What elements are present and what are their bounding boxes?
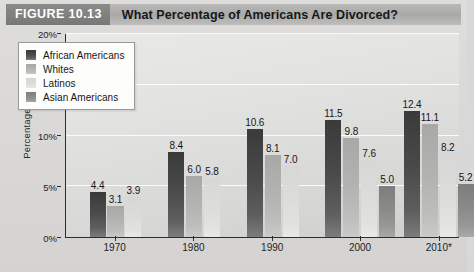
bar[interactable]: 4.4 [90,192,106,237]
legend-swatch-icon [26,50,36,60]
y-tick-label: 20% [38,29,57,40]
bar[interactable]: 10.6 [247,129,263,237]
bar[interactable]: 7.0 [283,166,299,237]
x-tick-mark [193,236,194,241]
legend-swatch-icon [26,92,36,102]
chart-area: Percentage 0%5%10%15%20% 4.43.13.98.46.0… [6,28,461,268]
bar-value-label: 3.9 [127,185,141,196]
bar-value-label: 3.1 [109,194,123,205]
bar[interactable]: 6.0 [186,176,202,237]
bar-value-label: 8.2 [441,142,455,153]
legend-label: African Americans [43,50,124,61]
bar[interactable]: 12.4 [404,111,420,237]
bar-value-label: 7.0 [284,154,298,165]
x-tick-label: 1980 [182,242,204,253]
legend-swatch-icon [26,64,36,74]
y-tick-label: 10% [38,131,57,142]
x-tick-label: 1970 [104,242,126,253]
x-tick-label: 1990 [261,242,283,253]
y-tick-mark [57,237,61,238]
bar[interactable]: 11.5 [325,120,341,237]
bar[interactable]: 5.2 [458,184,474,237]
bar[interactable]: 11.1 [422,124,438,237]
bar-value-label: 5.2 [459,172,473,183]
bar-value-label: 6.0 [187,164,201,175]
legend-swatch-icon [26,78,36,88]
x-tick-mark [115,236,116,241]
bar[interactable]: 8.1 [265,155,281,237]
x-tick-label: 2010* [426,242,452,253]
chart-legend: African AmericansWhitesLatinosAsian Amer… [18,42,135,110]
bar[interactable]: 3.9 [125,197,141,237]
bar-value-label: 7.6 [362,148,376,159]
bar[interactable]: 3.1 [107,206,123,237]
figure-header-bar: FIGURE 10.13 What Percentage of American… [6,4,461,25]
legend-item[interactable]: Asian Americans [26,90,124,104]
bar-value-label: 8.1 [266,143,280,154]
bar-group: 11.59.87.65.0 [302,34,381,237]
bar[interactable]: 8.2 [440,154,456,237]
bar-value-label: 12.4 [402,99,421,110]
y-tick-mark [57,186,61,187]
y-tick-label: 5% [43,182,57,193]
legend-label: Latinos [43,78,76,89]
bar-group: 12.411.18.25.2 [380,34,459,237]
bar-value-label: 9.8 [344,126,358,137]
legend-label: Whites [43,64,74,75]
bar-value-label: 11.5 [324,108,342,119]
x-tick-mark [272,236,273,241]
bar[interactable]: 5.8 [204,178,220,237]
x-tick-mark [439,236,440,241]
bar-value-label: 11.1 [421,112,439,123]
bar-value-label: 8.4 [169,140,183,151]
bar[interactable]: 7.6 [361,160,377,237]
figure-title: What Percentage of Americans Are Divorce… [122,8,398,22]
x-axis-labels: 19701980199020002010* [65,242,459,264]
bar-value-label: 4.4 [91,180,105,191]
y-tick-mark [57,135,61,136]
bar-value-label: 5.8 [205,166,219,177]
legend-item[interactable]: Latinos [26,76,124,90]
x-tick-label: 2000 [349,242,371,253]
y-tick-label: 0% [43,233,57,244]
figure-number-badge: FIGURE 10.13 [6,4,110,25]
bar-group: 8.46.05.8 [145,34,224,237]
y-tick-mark [57,33,61,34]
bar[interactable]: 8.4 [168,152,184,237]
x-tick-mark [360,236,361,241]
bar-group: 10.68.17.0 [223,34,302,237]
bar[interactable]: 9.8 [343,138,359,237]
legend-item[interactable]: Whites [26,62,124,76]
legend-item[interactable]: African Americans [26,48,124,62]
bar-value-label: 10.6 [245,117,264,128]
legend-label: Asian Americans [43,92,118,103]
